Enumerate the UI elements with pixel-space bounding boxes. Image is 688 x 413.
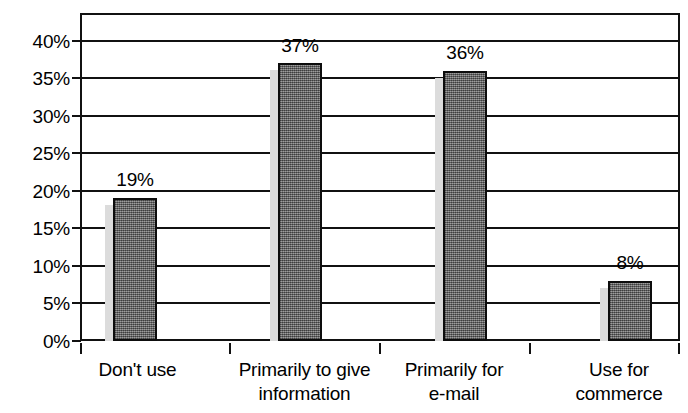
y-axis-tick-label-35: 35% (0, 69, 70, 88)
x-axis-category-label-primarily-to-give-information: Primarily to give information (212, 358, 397, 406)
gridline-30 (80, 115, 680, 117)
x-axis-category-label-dont-use: Don't use (60, 358, 215, 382)
bar-value-label-use-for-commerce: 8% (590, 253, 670, 272)
bar-primarily-to-give-information[interactable] (278, 63, 322, 341)
x-axis-category-line: commerce (550, 382, 688, 406)
x-axis-category-label-use-for-commerce: Use for commerce (550, 358, 688, 406)
y-axis-tick-label-15: 15% (0, 219, 70, 238)
bar-value-label-primarily-for-email: 36% (425, 43, 505, 62)
x-axis-tick-mark-2 (379, 343, 381, 354)
bar-chart: 40% 35% 30% 25% 20% 15% 10% 5% 0% 19% 37… (0, 0, 688, 413)
y-axis-tick-label-10: 10% (0, 257, 70, 276)
gridline-35 (80, 77, 680, 79)
x-axis-category-line: Primarily to give (212, 358, 397, 382)
y-axis-tick-label-25: 25% (0, 144, 70, 163)
gridline-20 (80, 190, 680, 192)
y-axis-tick-label-20: 20% (0, 182, 70, 201)
gridline-15 (80, 227, 680, 229)
x-axis-category-line: e-mail (380, 382, 528, 406)
x-axis-tick-mark-0 (80, 343, 82, 354)
bar-value-label-primarily-to-give-information: 37% (260, 36, 340, 55)
gridline-5 (80, 302, 680, 304)
x-axis-tick-mark-1 (229, 343, 231, 354)
x-axis-tick-mark-4 (678, 343, 680, 354)
bar-dont-use[interactable] (113, 198, 157, 341)
x-axis-category-line: Primarily for (380, 358, 528, 382)
y-axis-tick-label-0: 0% (0, 332, 70, 351)
bar-use-for-commerce[interactable] (608, 281, 652, 341)
x-axis-category-line: Use for (550, 358, 688, 382)
bar-primarily-for-email[interactable] (443, 71, 487, 341)
y-axis-tick-label-30: 30% (0, 107, 70, 126)
x-axis-category-label-primarily-for-email: Primarily for e-mail (380, 358, 528, 406)
bar-value-label-dont-use: 19% (95, 170, 175, 189)
y-axis-tick-label-40: 40% (0, 32, 70, 51)
x-axis-category-line: Don't use (60, 358, 215, 382)
y-axis-tick-label-5: 5% (0, 294, 70, 313)
x-axis-tick-mark-3 (529, 343, 531, 354)
gridline-25 (80, 152, 680, 154)
gridline-40 (80, 40, 680, 42)
x-axis-category-line: information (212, 382, 397, 406)
